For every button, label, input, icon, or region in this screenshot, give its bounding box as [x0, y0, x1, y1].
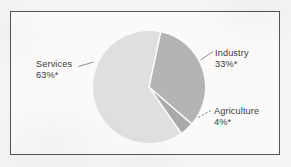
leader-line-services: [79, 62, 94, 67]
leader-line-industry: [201, 52, 214, 61]
pie-label-agriculture-name: Agriculture: [214, 106, 259, 116]
leader-line-agriculture: [198, 110, 212, 118]
pie-label-services: Services 63%*: [36, 59, 72, 81]
pie-chart-svg: [0, 0, 291, 167]
pie-label-industry-name: Industry: [215, 48, 249, 58]
pie-label-agriculture: Agriculture 4%*: [214, 106, 259, 128]
pie-label-agriculture-percent: 4%*: [214, 117, 259, 128]
pie-label-industry: Industry 33%*: [215, 48, 249, 70]
pie-label-services-name: Services: [36, 59, 72, 69]
pie-label-services-percent: 63%*: [36, 70, 72, 81]
pie-chart-plot-area: Services 63%* Industry 33%* Agriculture …: [0, 0, 291, 167]
pie-label-industry-percent: 33%*: [215, 59, 249, 70]
chart-canvas: Services 63%* Industry 33%* Agriculture …: [0, 0, 291, 167]
